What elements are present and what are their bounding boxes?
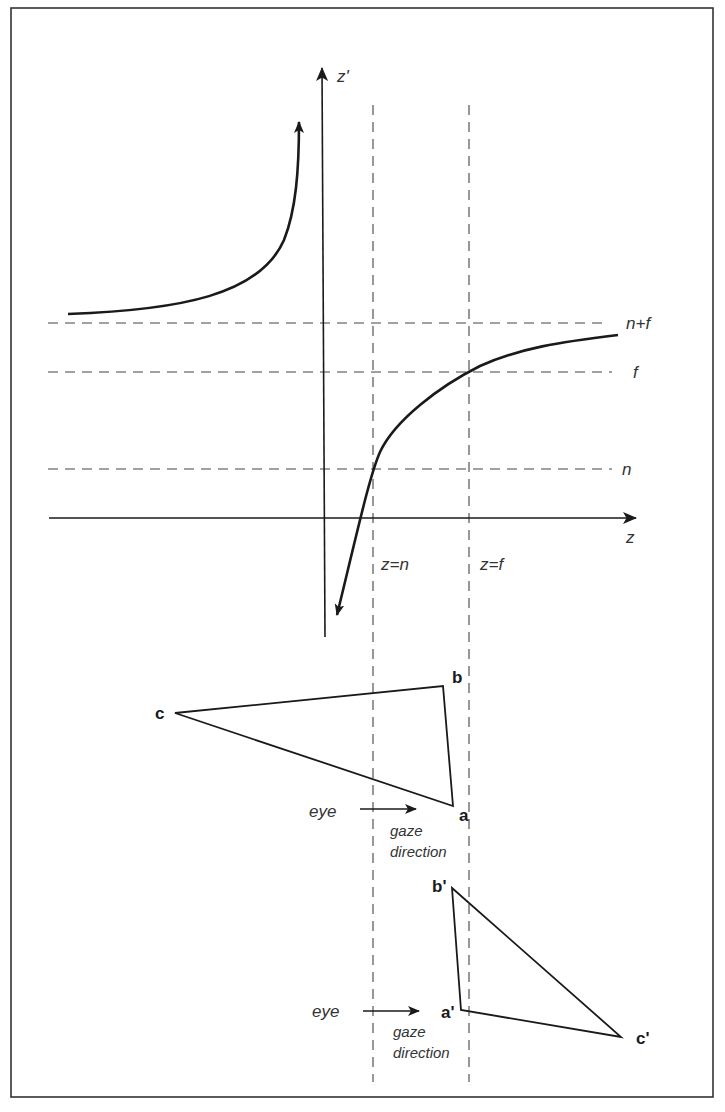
guide-label-z-eq-f: z=f [479, 555, 505, 574]
gaze-label-original-line1: gaze [390, 822, 423, 839]
eye-label-transformed: eye [312, 1002, 339, 1021]
guide-label-f: f [633, 363, 640, 382]
vertex-label-c: c [155, 704, 164, 723]
x-axis-label: z [625, 528, 635, 547]
guide-label-z-eq-n: z=n [380, 555, 409, 574]
vertex-label-b: b [452, 668, 462, 687]
guide-label-n-plus-f: n+f [626, 314, 652, 333]
eye-label-original: eye [309, 802, 336, 821]
vertex-label-b-prime: b' [432, 877, 446, 896]
curve-branch-right [337, 335, 618, 615]
gaze-label-transformed-line2: direction [393, 1044, 450, 1061]
curve-branch-left [68, 122, 299, 314]
vertex-label-a: a [459, 806, 469, 825]
vertex-label-a-prime: a' [441, 1003, 455, 1022]
triangle-transformed [452, 888, 621, 1037]
z-prime-axis [322, 68, 325, 637]
y-axis-label: z' [336, 67, 350, 86]
figure-frame [11, 8, 713, 1097]
perspective-depth-diagram: z' z n+f f n z=n z=f c b a eye gaze dire… [0, 0, 725, 1112]
gaze-label-transformed-line1: gaze [393, 1023, 426, 1040]
gaze-label-original-line2: direction [390, 843, 447, 860]
guide-label-n: n [622, 460, 631, 479]
vertex-label-c-prime: c' [636, 1029, 650, 1048]
triangle-original [175, 686, 453, 806]
